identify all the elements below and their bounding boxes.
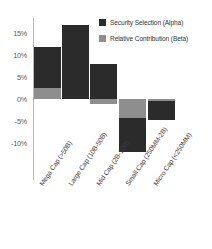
legend-item[interactable]: Relative Contribution (Beta) [99, 35, 188, 42]
y-axis-tick: 15% [13, 29, 27, 38]
y-axis-tick: -5% [15, 117, 27, 126]
legend-label: Security Selection (Alpha) [110, 19, 183, 26]
bar-segment-alpha[interactable] [90, 64, 117, 99]
bar-segment-alpha[interactable] [148, 101, 175, 120]
legend-label: Relative Contribution (Beta) [110, 35, 188, 42]
bar-segment-alpha[interactable] [62, 25, 89, 99]
y-axis-tick: 10% [13, 51, 27, 60]
y-axis-tick: -10% [11, 139, 27, 148]
bar-segment-alpha[interactable] [34, 47, 61, 88]
bar-segment-beta[interactable] [119, 99, 146, 118]
legend-item[interactable]: Security Selection (Alpha) [99, 19, 188, 26]
bar-segment-beta[interactable] [90, 99, 117, 104]
chart-legend: Security Selection (Alpha)Relative Contr… [99, 19, 188, 51]
y-axis-tick: 5% [17, 73, 27, 82]
legend-swatch-icon [99, 19, 106, 26]
legend-swatch-icon [99, 35, 106, 42]
chart-container: 15%10%5%0%-5%-10% Security Selection (Al… [0, 0, 212, 249]
bar-segment-beta[interactable] [34, 88, 61, 99]
y-axis-tick: 0% [17, 95, 27, 104]
x-axis-tick-labels: Mega Cap (>50B)Large Cap (10B-50B)Mid Ca… [0, 181, 212, 249]
